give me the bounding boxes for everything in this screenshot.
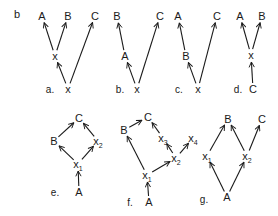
node-subscript: 1 <box>148 176 152 183</box>
node-e-B: B <box>50 135 57 147</box>
edge-d-C-to-x <box>251 62 252 83</box>
edge-e-A-to-x1 <box>78 171 79 186</box>
panel-e: CBx2x1Ae. <box>50 112 102 198</box>
node-subscript: 2 <box>99 142 103 149</box>
node-a-A: A <box>38 10 46 22</box>
node-g-A: A <box>223 191 231 203</box>
edge-a-x0-to-x <box>58 63 66 84</box>
panel-caption-b: b. <box>116 84 124 95</box>
node-subscript: 2 <box>177 159 181 166</box>
panel-f: CBx3x4x2x1Af. <box>120 111 197 208</box>
node-f-C: C <box>144 111 152 123</box>
node-e-C: C <box>75 112 83 124</box>
edge-c-x-to-C <box>200 23 216 83</box>
node-g-x1: x1 <box>202 150 212 164</box>
edge-e-B-to-C <box>58 123 73 137</box>
panel-d: ABxCd. <box>234 10 266 95</box>
panel-caption-a: a. <box>46 84 54 95</box>
node-a-x: x <box>52 50 58 62</box>
panel-g: BCx1x2Ag. <box>200 113 266 205</box>
edge-a-x-to-A <box>44 23 53 51</box>
node-f-A: A <box>145 196 153 208</box>
edge-d-x-to-B <box>253 23 260 49</box>
node-e-A: A <box>75 186 83 198</box>
node-d-x: x <box>248 49 254 61</box>
node-f-B: B <box>120 124 127 136</box>
node-g-C: C <box>258 113 266 125</box>
edge-a-x0-to-C <box>70 23 92 84</box>
node-f-x3: x3 <box>158 132 168 146</box>
node-f-x2: x2 <box>171 152 181 166</box>
panel-caption-f: f. <box>127 197 133 208</box>
edge-g-x2-to-C <box>249 125 259 150</box>
edge-d-x-to-A <box>242 23 249 49</box>
node-a-C: C <box>91 10 99 22</box>
node-b-B: B <box>113 10 120 22</box>
node-d-C: C <box>249 83 257 95</box>
node-b-A: A <box>121 50 129 62</box>
node-subscript: 4 <box>194 139 198 146</box>
edge-g-A-to-x2 <box>230 162 244 191</box>
node-d-A: A <box>236 10 244 22</box>
panel-caption-c: c. <box>175 84 183 95</box>
node-g-B: B <box>224 113 231 125</box>
edge-e-x1-to-x2 <box>82 146 93 159</box>
node-c-A: A <box>174 10 182 22</box>
panel-caption-d: d. <box>234 84 242 95</box>
node-g-x2: x2 <box>242 150 252 164</box>
edge-e-x1-to-B <box>59 146 74 160</box>
edge-c-x-to-B <box>188 63 196 84</box>
edge-f-x1-to-B <box>127 136 144 169</box>
node-subscript: 1 <box>79 165 83 172</box>
node-f-x1: x1 <box>142 169 152 183</box>
node-e-x1: x1 <box>73 158 83 172</box>
panel-caption-g: g. <box>200 194 208 205</box>
node-subscript: 2 <box>248 157 252 164</box>
node-d-B: B <box>258 10 265 22</box>
node-e-x2: x2 <box>93 135 103 149</box>
edge-a-x-to-B <box>57 23 66 51</box>
node-c-x: x <box>195 83 201 95</box>
node-c-B: B <box>182 50 189 62</box>
edge-f-x2-to-x4 <box>180 143 189 153</box>
figure-label: b <box>14 8 20 20</box>
node-subscript: 1 <box>208 157 212 164</box>
edge-f-A-to-x1 <box>148 182 149 196</box>
panels-group: ABCxxa.BCAxb.ACBxc.ABxCd.CBx2x1Ae.CBx3x4… <box>38 10 266 208</box>
node-b-x: x <box>134 83 140 95</box>
diagram-canvas: b ABCxxa.BCAxb.ACBxc.ABxCd.CBx2x1Ae.CBx3… <box>0 0 278 216</box>
edge-g-x1-to-B <box>210 125 225 151</box>
edge-f-x1-to-x2 <box>152 162 170 172</box>
edge-b-x-to-C <box>139 23 158 84</box>
node-a-B: B <box>64 10 71 22</box>
edge-g-A-to-x1 <box>210 162 224 191</box>
node-c-C: C <box>213 10 221 22</box>
node-subscript: 3 <box>164 139 168 146</box>
panel-caption-e: e. <box>51 187 59 198</box>
edge-b-x-to-A <box>127 63 135 84</box>
node-f-x4: x4 <box>188 132 198 146</box>
node-a-x0: x <box>65 83 71 95</box>
panel-b: BCAxb. <box>113 10 164 95</box>
panel-c: ACBxc. <box>174 10 221 95</box>
edge-f-B-to-C <box>129 120 142 127</box>
panel-a: ABCxxa. <box>38 10 99 95</box>
edge-c-B-to-A <box>179 23 184 50</box>
edge-b-A-to-B <box>118 23 123 50</box>
edge-g-x2-to-B <box>231 125 244 150</box>
node-b-C: C <box>156 10 164 22</box>
